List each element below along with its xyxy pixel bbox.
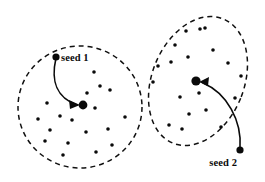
data-point — [85, 91, 89, 95]
assignment-curve — [203, 83, 240, 148]
data-point — [94, 150, 98, 154]
data-point — [92, 70, 96, 74]
data-point — [180, 127, 184, 131]
assignment-curve — [54, 58, 77, 105]
data-point — [45, 101, 49, 105]
data-point — [198, 27, 202, 31]
data-point — [233, 96, 237, 100]
data-point — [48, 128, 52, 132]
seed-1-to-center-1-arrow — [54, 58, 87, 109]
arrow-head-icon — [69, 100, 80, 109]
data-point — [204, 108, 208, 112]
cluster-1-points-group — [36, 70, 127, 157]
data-point — [156, 64, 160, 68]
data-point — [61, 153, 65, 157]
data-point — [70, 118, 74, 122]
data-point — [93, 106, 97, 110]
data-point — [187, 112, 191, 116]
data-point — [169, 60, 173, 64]
data-point — [98, 84, 102, 88]
seed-2-label: seed 2 — [209, 157, 237, 168]
data-point — [123, 115, 127, 119]
data-point — [106, 127, 110, 131]
cluster-1-center-point — [79, 101, 88, 110]
seed-2-point — [236, 146, 243, 153]
data-point — [84, 130, 88, 134]
cluster-2-center-point — [191, 76, 200, 85]
seed-2-to-center-2-arrow — [191, 76, 240, 148]
data-point — [226, 61, 230, 65]
data-point — [110, 143, 114, 147]
data-point — [167, 123, 171, 127]
cluster-boundaries-group — [18, 2, 265, 168]
seed-labels-group: seed 1 seed 2 — [61, 52, 237, 168]
data-point — [184, 29, 188, 33]
data-point — [239, 74, 243, 78]
data-point — [58, 114, 62, 118]
data-point — [186, 55, 190, 59]
data-point — [173, 43, 177, 47]
data-point — [197, 91, 201, 95]
seed-1-point — [52, 53, 59, 60]
seed-1-label: seed 1 — [61, 52, 89, 63]
data-point — [211, 48, 215, 52]
clustering-figure: seed 1 seed 2 — [0, 0, 265, 182]
data-point — [219, 125, 223, 129]
data-point — [43, 139, 47, 143]
data-point — [36, 117, 40, 121]
data-point — [203, 26, 207, 30]
data-point — [66, 141, 70, 145]
data-point — [151, 80, 155, 84]
figure-canvas: seed 1 seed 2 — [0, 0, 265, 182]
data-point — [178, 95, 182, 99]
data-point — [108, 88, 112, 92]
